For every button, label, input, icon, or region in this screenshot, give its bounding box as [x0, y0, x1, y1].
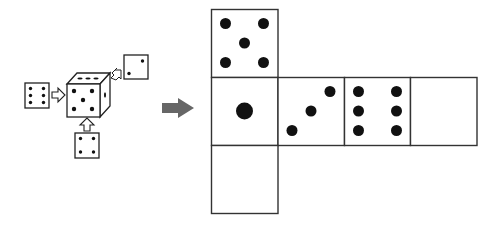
net-cell-empty-bottom — [212, 146, 279, 214]
hollow-arrow-diagonal-icon — [111, 68, 121, 80]
hollow-arrow-up-icon — [80, 118, 94, 131]
net-cell-empty-right — [411, 78, 478, 146]
side-view-left-die — [25, 83, 49, 108]
cube — [67, 73, 110, 117]
solid-arrow-right-icon — [162, 98, 194, 118]
dice-diagram — [0, 0, 501, 227]
side-view-bottom-die — [75, 133, 99, 158]
side-view-top-right-die — [124, 55, 148, 79]
hollow-arrow-right-icon — [52, 88, 65, 102]
